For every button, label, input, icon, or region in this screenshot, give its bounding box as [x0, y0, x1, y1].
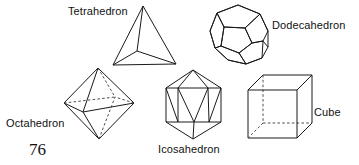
- cube-shape: [248, 75, 312, 138]
- label-cube: Cube: [314, 106, 341, 118]
- label-tetrahedron: Tetrahedron: [68, 5, 128, 17]
- figure-page: Tetrahedron Dodecahedron Octahedron Icos…: [0, 0, 359, 165]
- label-dodecahedron: Dodecahedron: [272, 19, 345, 31]
- label-octahedron: Octahedron: [6, 117, 64, 129]
- page-number: 76: [29, 141, 46, 159]
- label-icosahedron: Icosahedron: [158, 143, 220, 155]
- octahedron-shape: [64, 68, 134, 139]
- dodecahedron-shape: [210, 5, 268, 64]
- icosahedron-shape: [166, 70, 221, 139]
